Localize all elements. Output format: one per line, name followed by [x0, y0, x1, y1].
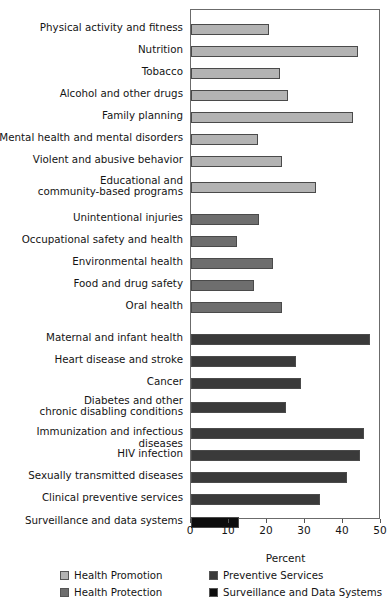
legend-label-preventive-services: Preventive Services	[223, 570, 323, 581]
x-axis-tick	[228, 519, 229, 523]
legend-item-health-promotion: Health Promotion	[60, 570, 163, 581]
legend-item-preventive-services: Preventive Services	[209, 570, 323, 581]
x-axis-tick-label: 10	[213, 524, 243, 536]
bar-category-label: Violent and abusive behavior	[0, 154, 183, 165]
bar	[191, 24, 269, 35]
x-axis-tick	[380, 519, 381, 523]
legend-item-health-protection: Health Protection	[60, 587, 162, 598]
bar	[191, 258, 273, 269]
bar	[191, 356, 296, 367]
bar-category-label: Cancer	[0, 376, 183, 387]
x-axis-title: Percent	[190, 552, 381, 564]
bar-chart: Physical activity and fitnessNutritionTo…	[0, 0, 389, 604]
legend-item-surveillance: Surveillance and Data Systems	[209, 587, 382, 598]
legend-label-surveillance: Surveillance and Data Systems	[223, 587, 382, 598]
bar	[191, 402, 286, 413]
bar	[191, 494, 320, 505]
bar-category-label: Alcohol and other drugs	[0, 88, 183, 99]
bar-category-label: Clinical preventive services	[0, 492, 183, 503]
bar	[191, 378, 301, 389]
bar	[191, 112, 353, 123]
x-axis-tick	[304, 519, 305, 523]
legend-swatch-preventive-services	[209, 571, 218, 580]
bar-category-label: Unintentional injuries	[0, 212, 183, 223]
x-axis-tick	[190, 519, 191, 523]
legend-label-health-protection: Health Protection	[74, 587, 162, 598]
bar	[191, 334, 370, 345]
bar-category-label: Nutrition	[0, 44, 183, 55]
bar-category-label: Food and drug safety	[0, 278, 183, 289]
x-axis-tick-label: 30	[289, 524, 319, 536]
cropped-title-strip	[0, 0, 389, 7]
bar-category-label: Environmental health	[0, 256, 183, 267]
bar	[191, 68, 280, 79]
bar-category-label: Educational and community-based programs	[0, 175, 183, 198]
bar-category-label: Heart disease and stroke	[0, 354, 183, 365]
bar	[191, 156, 282, 167]
bar-category-label: Diabetes and other chronic disabling con…	[0, 395, 183, 418]
x-axis: 01020304050	[190, 519, 381, 520]
bar-category-label: Maternal and infant health	[0, 332, 183, 343]
x-axis-tick	[342, 519, 343, 523]
x-axis-tick-label: 0	[175, 524, 205, 536]
legend-swatch-health-protection	[60, 588, 69, 597]
bar-category-label: Immunization and infectious diseases	[0, 426, 183, 449]
legend-label-health-promotion: Health Promotion	[74, 570, 163, 581]
bar-category-label: Oral health	[0, 300, 183, 311]
legend-swatch-surveillance	[209, 588, 218, 597]
x-axis-tick-label: 50	[365, 524, 389, 536]
x-axis-tick	[266, 519, 267, 523]
bar	[191, 90, 288, 101]
bar-category-label: Occupational safety and health	[0, 234, 183, 245]
bar-category-label: Physical activity and fitness	[0, 22, 183, 33]
chart-legend: Health Promotion Health Protection Preve…	[27, 570, 389, 604]
bar	[191, 214, 259, 225]
bar-category-label: Mental health and mental disorders	[0, 132, 183, 143]
bar-category-label: HIV infection	[0, 448, 183, 459]
bar	[191, 428, 364, 439]
x-axis-tick-label: 40	[327, 524, 357, 536]
legend-swatch-health-promotion	[60, 571, 69, 580]
bar	[191, 236, 237, 247]
bar-rows-container: Physical activity and fitnessNutritionTo…	[0, 9, 389, 519]
bar-category-label: Tobacco	[0, 66, 183, 77]
x-axis-tick-label: 20	[251, 524, 281, 536]
bar	[191, 472, 347, 483]
bar-category-label: Sexually transmitted diseases	[0, 470, 183, 481]
bar-category-label: Surveillance and data systems	[0, 515, 183, 526]
bar	[191, 182, 316, 193]
bar	[191, 134, 258, 145]
bar-category-label: Family planning	[0, 110, 183, 121]
bar	[191, 302, 282, 313]
bar	[191, 450, 360, 461]
bar	[191, 280, 254, 291]
bar	[191, 46, 358, 57]
